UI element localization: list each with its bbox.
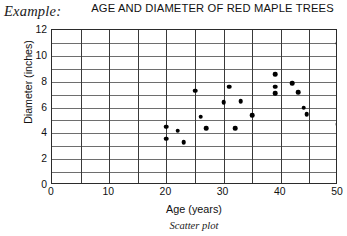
data-point [181, 140, 186, 145]
data-point [273, 91, 278, 96]
data-point [250, 113, 255, 118]
x-tick-label: 50 [322, 186, 347, 197]
data-point [304, 112, 309, 117]
scatter-plot-figure: Example: AGE AND DIAMETER OF RED MAPLE T… [0, 0, 347, 236]
y-axis-title: Diameter (inches) [22, 7, 34, 157]
plot-area [51, 29, 337, 184]
data-point [273, 85, 278, 90]
data-point [221, 100, 226, 105]
x-axis-title: Age (years) [51, 203, 337, 215]
figure-caption: Scatter plot [51, 220, 337, 231]
x-tick-label: 10 [93, 186, 123, 197]
x-tick-label: 30 [208, 186, 238, 197]
x-tick-label: 20 [150, 186, 180, 197]
x-axis-tick-labels: 01020304050 [51, 186, 337, 202]
data-point [176, 128, 181, 133]
data-point [290, 81, 295, 86]
data-point [204, 126, 209, 131]
data-points-layer [52, 30, 336, 183]
data-point [227, 85, 232, 90]
data-point [296, 90, 301, 95]
x-tick-label: 40 [265, 186, 295, 197]
data-point [193, 88, 198, 93]
data-point [238, 99, 243, 104]
data-point [164, 125, 169, 130]
data-point [273, 72, 278, 77]
data-point [164, 136, 169, 141]
data-point [198, 114, 203, 119]
data-point [301, 105, 306, 110]
x-tick-label: 0 [36, 186, 66, 197]
chart-title: AGE AND DIAMETER OF RED MAPLE TREES [85, 2, 340, 14]
data-point [233, 126, 238, 131]
